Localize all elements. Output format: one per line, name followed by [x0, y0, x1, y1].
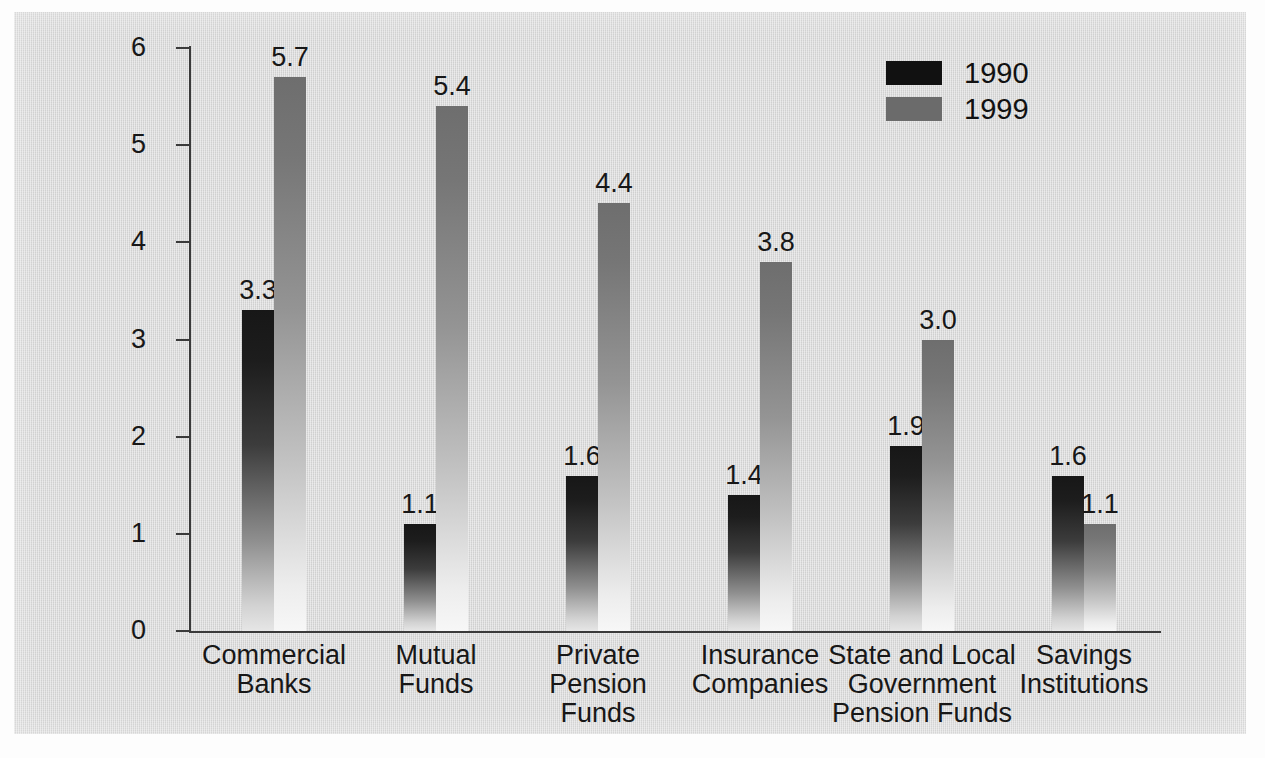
legend-label-1999: 1999 [964, 95, 1029, 124]
bar-value-label: 1.1 [1064, 491, 1136, 518]
bar-1999-1[interactable] [436, 106, 468, 631]
y-axis-tick-label: 2 [106, 423, 146, 450]
bar-1999-0[interactable] [274, 77, 306, 631]
category-label-5: SavingsInstitutions [979, 641, 1189, 699]
chart-page: 0123456 3.35.71.15.41.64.41.43.81.93.01.… [0, 0, 1265, 758]
bar-value-label: 3.8 [740, 229, 812, 256]
bar-value-label: 5.4 [416, 73, 488, 100]
legend-swatch-icon-1999 [886, 97, 942, 121]
y-axis-tick [176, 533, 189, 535]
y-axis-tick-label: 3 [106, 326, 146, 353]
y-axis-tick-label: 4 [106, 228, 146, 255]
bar-1990-3[interactable] [728, 495, 760, 631]
y-axis-tick-label: 0 [106, 617, 146, 644]
category-label-line: Pension Funds [817, 699, 1027, 728]
bar-1999-4[interactable] [922, 340, 954, 632]
x-axis-line [189, 631, 1161, 633]
y-axis-tick [176, 436, 189, 438]
bar-1999-5[interactable] [1084, 524, 1116, 631]
bar-value-label: 3.0 [902, 307, 974, 334]
legend-label-1990: 1990 [964, 59, 1029, 88]
chart-legend: 1990 1999 [886, 55, 1029, 127]
y-axis-line [189, 46, 191, 633]
bar-value-label: 1.6 [1032, 443, 1104, 470]
y-axis-tick-label: 1 [106, 520, 146, 547]
y-axis-tick [176, 47, 189, 49]
bar-1999-3[interactable] [760, 262, 792, 631]
bar-1990-1[interactable] [404, 524, 436, 631]
bar-value-label: 4.4 [578, 170, 650, 197]
bar-1990-2[interactable] [566, 476, 598, 631]
y-axis-tick-label: 5 [106, 131, 146, 158]
legend-swatch-icon-1990 [886, 61, 942, 85]
category-label-line: Funds [493, 699, 703, 728]
bar-1990-0[interactable] [242, 310, 274, 631]
category-label-line: Savings [979, 641, 1189, 670]
legend-item-1999[interactable]: 1999 [886, 91, 1029, 127]
plot-area: 0123456 3.35.71.15.41.64.41.43.81.93.01.… [0, 0, 1265, 758]
category-label-line: Institutions [979, 670, 1189, 699]
y-axis-tick-label: 6 [106, 34, 146, 61]
bar-1999-2[interactable] [598, 203, 630, 631]
bar-value-label: 5.7 [254, 44, 326, 71]
y-axis-tick [176, 630, 189, 632]
y-axis-tick [176, 144, 189, 146]
legend-item-1990[interactable]: 1990 [886, 55, 1029, 91]
y-axis-tick [176, 241, 189, 243]
bar-1990-4[interactable] [890, 446, 922, 631]
y-axis-tick [176, 339, 189, 341]
